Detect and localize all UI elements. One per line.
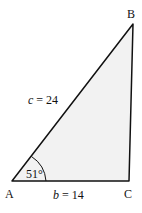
side-value-c: 24 bbox=[46, 93, 58, 107]
side-var-c: c bbox=[28, 93, 34, 107]
side-label-c: c = 24 bbox=[28, 93, 58, 107]
vertex-label-c: C bbox=[124, 187, 132, 201]
side-label-b: b = 14 bbox=[53, 188, 84, 202]
side-var-b: b bbox=[53, 188, 59, 202]
vertex-label-b: B bbox=[127, 7, 135, 21]
vertex-label-a: A bbox=[5, 187, 14, 201]
triangle-diagram: B A C c = 24 b = 14 51° bbox=[0, 0, 142, 213]
angle-label-a: 51° bbox=[26, 167, 43, 181]
side-value-b: 14 bbox=[72, 188, 84, 202]
